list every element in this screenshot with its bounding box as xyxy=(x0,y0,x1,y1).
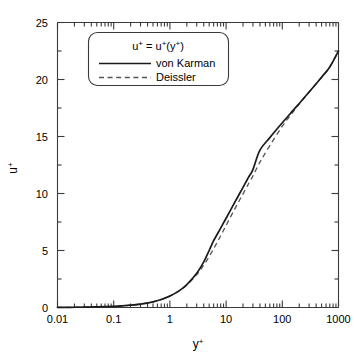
y-tick-label: 15 xyxy=(36,131,48,143)
y-tick-label: 20 xyxy=(36,74,48,86)
x-tick-label: 1000 xyxy=(326,313,350,325)
legend-label-deissler: Deissler xyxy=(156,71,196,83)
y-tick-label: 5 xyxy=(42,245,48,257)
x-axis-title-superscript: + xyxy=(199,337,204,346)
y-tick-label: 25 xyxy=(36,17,48,29)
x-tick-label: 0.01 xyxy=(47,313,68,325)
y-axis-title-superscript: + xyxy=(6,162,15,167)
y-axis-title-base: u xyxy=(6,167,20,174)
x-tick-label: 100 xyxy=(273,313,291,325)
x-tick-label: 0.1 xyxy=(106,313,121,325)
legend-box: u+ = u+(y+) von Karman Deissler xyxy=(89,33,229,86)
legend-title-eq: = u xyxy=(143,40,162,52)
x-tick-label: 1 xyxy=(167,313,173,325)
x-tick-label: 10 xyxy=(220,313,232,325)
y-tick-label: 0 xyxy=(42,302,48,314)
y-tick-label: 10 xyxy=(36,188,48,200)
legend-label-von-karman: von Karman xyxy=(156,57,215,69)
figure-container: 0.010.11101001000 0510152025 y+ u+ u+ = … xyxy=(0,0,354,362)
legend-title-close: ) xyxy=(180,40,184,52)
velocity-profile-chart: 0.010.11101001000 0510152025 y+ u+ u+ = … xyxy=(0,0,354,362)
